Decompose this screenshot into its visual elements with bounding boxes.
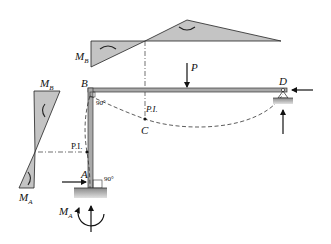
column-upper-moment-region [34, 91, 60, 152]
negative-moment-region [91, 41, 145, 67]
beam-moment-diagram: MB [74, 20, 281, 67]
angle-a-label: 90° [104, 175, 114, 183]
angle-b-label: 90° [96, 99, 106, 107]
mb-left-label: MB [39, 77, 54, 92]
point-c-label: C [141, 124, 149, 136]
column-inflection-point [85, 150, 88, 153]
beam-pi-label: P.I. [145, 104, 158, 114]
column-pi-label: P.I. [71, 141, 83, 151]
joint-b-label: B [81, 77, 88, 89]
beam-member [88, 88, 287, 92]
column-lower-moment-region [19, 152, 35, 188]
ma-left-label: MA [18, 191, 33, 206]
column-member [88, 88, 93, 188]
frame-diagram: MB MB MA 90° P.I. P.I. B C D A P [0, 0, 331, 244]
load-p-label: P [190, 61, 198, 73]
beam-deflected-shape [90, 94, 283, 127]
support-d [273, 88, 313, 134]
positive-moment-region [145, 20, 281, 41]
mb-top-label: MB [74, 50, 89, 65]
ground-a [74, 188, 107, 198]
support-d-label: D [278, 75, 287, 87]
frame [88, 88, 287, 188]
support-a: 90° MA [58, 175, 114, 232]
right-angle-marker-a [93, 180, 102, 188]
ma-base-label: MA [58, 205, 73, 220]
support-a-label: A [80, 168, 88, 180]
column-moment-diagram: MB MA [18, 77, 60, 206]
beam-inflection-point [143, 117, 146, 120]
ground-d [273, 98, 293, 104]
